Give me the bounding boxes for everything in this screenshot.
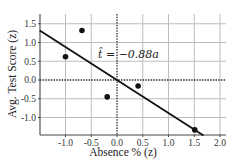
x-tick-label: 1.5 xyxy=(188,138,200,148)
data-point xyxy=(192,127,198,133)
y-tick-label: 0.5 xyxy=(24,57,36,67)
y-axis-label: Avg. Test Score (z) xyxy=(6,30,19,118)
axes xyxy=(38,14,226,137)
y-tick-label: 1.5 xyxy=(24,19,36,29)
regression-line xyxy=(40,31,204,136)
data-point xyxy=(79,28,85,34)
y-tick-label: 0.0 xyxy=(24,75,36,85)
y-tick-labels: 1.51.00.50.0-0.5-1.0 xyxy=(21,19,36,123)
zero-lines xyxy=(40,14,226,135)
data-point xyxy=(63,54,69,60)
regression-annotation: t̂ = −0.88a xyxy=(98,47,159,61)
fit-line xyxy=(40,31,204,136)
x-axis-label: Absence % (z) xyxy=(89,146,157,159)
x-tick-label: -1.0 xyxy=(58,138,73,148)
y-tick-label: -1.0 xyxy=(21,113,36,123)
grid-lines xyxy=(40,14,226,135)
scatter-chart: -1.0-0.50.00.51.01.52.0 1.51.00.50.0-0.5… xyxy=(0,0,235,168)
y-tick-label: 1.0 xyxy=(24,38,36,48)
y-tick-label: -0.5 xyxy=(21,94,36,104)
data-point xyxy=(104,94,110,100)
data-point xyxy=(135,83,141,89)
x-tick-label: 2.0 xyxy=(214,138,226,148)
x-tick-label: 1.0 xyxy=(163,138,175,148)
